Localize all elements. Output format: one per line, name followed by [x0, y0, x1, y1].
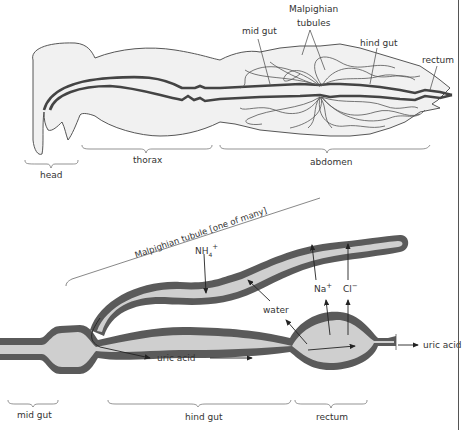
- label-head: head: [40, 170, 62, 180]
- page-edge-line: [458, 0, 459, 430]
- label-malpighian-tubules-2: tubules: [297, 18, 331, 28]
- bottom-braces: [8, 400, 367, 408]
- label-malpighian-tubules-1: Malpighian: [289, 4, 338, 14]
- label-thorax: thorax: [133, 155, 163, 165]
- label-abdomen: abdomen: [310, 157, 352, 167]
- label-top-hind-gut: hind gut: [360, 38, 398, 48]
- label-na: Na+: [314, 282, 332, 294]
- top-braces: [25, 145, 430, 168]
- bottom-panel: Malpighian tubule [one of many]: [0, 198, 461, 422]
- label-bottom-hind-gut: hind gut: [185, 412, 223, 422]
- label-cl: Cl−: [343, 282, 358, 294]
- label-top-rectum: rectum: [422, 55, 454, 65]
- label-bottom-rectum: rectum: [316, 412, 348, 422]
- label-uric-acid-out: uric acid: [423, 340, 461, 350]
- insect-excretion-diagram: Malpighian tubules mid gut hind gut rect…: [0, 0, 470, 430]
- label-water: water: [263, 305, 289, 315]
- top-panel: Malpighian tubules mid gut hind gut rect…: [25, 4, 454, 180]
- label-top-mid-gut: mid gut: [242, 26, 277, 36]
- label-uric-acid-inner: uric acid: [157, 353, 195, 363]
- label-bottom-mid-gut: mid gut: [17, 410, 52, 420]
- label-nh4: NH4+: [195, 243, 218, 258]
